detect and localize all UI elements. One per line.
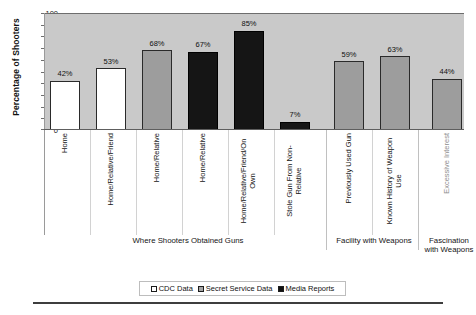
y-axis-spine bbox=[44, 13, 45, 235]
bar-value-home-relative-friend: 53% bbox=[96, 58, 126, 66]
category-label-home-relative-friend-own: Home/Relative/Friend/On Own bbox=[240, 133, 257, 229]
plot-area bbox=[44, 13, 464, 130]
category-label-home: Home bbox=[61, 133, 70, 153]
legend-swatch-media-icon bbox=[278, 286, 284, 292]
plot-inner bbox=[44, 14, 464, 130]
category-label-home-relative-friend: Home/Relative/Friend bbox=[107, 133, 116, 206]
category-separator bbox=[372, 130, 373, 235]
bar-value-home-relative-ss: 68% bbox=[142, 40, 172, 48]
category-label-wrap: Home/Relative bbox=[142, 133, 172, 229]
group-label-where-shooters-obtained-guns: Where Shooters Obtained Guns bbox=[108, 236, 268, 245]
category-label-previously-used-gun: Previously Used Gun bbox=[345, 133, 354, 203]
bar-home-relative-ss[interactable] bbox=[142, 50, 172, 130]
category-label-excessive-interest: Excessive Interest bbox=[443, 133, 452, 194]
category-separator bbox=[228, 130, 229, 235]
category-separator bbox=[182, 130, 183, 235]
x-axis-baseline bbox=[44, 129, 464, 130]
category-label-wrap: Home/Relative/Friend bbox=[96, 133, 126, 229]
legend-swatch-cdc-icon bbox=[151, 286, 157, 292]
bar-home-relative-friend-own[interactable] bbox=[234, 31, 264, 131]
bar-known-history-weapon-use[interactable] bbox=[380, 56, 410, 130]
category-separator bbox=[136, 130, 137, 235]
chart-figure: Percentage of Shooters 100 90 80 70 60 5… bbox=[0, 0, 476, 315]
legend-label-secret-service-data: Secret Service Data bbox=[206, 284, 273, 293]
bar-value-home: 42% bbox=[50, 70, 80, 78]
category-label-wrap: Known History of Weapon Use bbox=[380, 133, 410, 229]
bar-value-previously-used-gun: 59% bbox=[334, 51, 364, 59]
category-label-wrap: Home/Relative bbox=[188, 133, 218, 229]
category-label-home-relative-media: Home/Relative bbox=[199, 133, 208, 182]
bar-home[interactable] bbox=[50, 81, 80, 130]
group-separator bbox=[418, 130, 419, 250]
bar-home-relative-friend[interactable] bbox=[96, 68, 126, 130]
category-label-wrap: Home/Relative/Friend/On Own bbox=[234, 133, 264, 229]
category-label-wrap: Home bbox=[50, 133, 80, 229]
bar-value-known-history-weapon-use: 63% bbox=[380, 46, 410, 54]
bar-previously-used-gun[interactable] bbox=[334, 61, 364, 130]
legend: CDC Data Secret Service Data Media Repor… bbox=[139, 281, 346, 296]
category-label-wrap: Excessive Interest bbox=[432, 133, 462, 229]
legend-label-media-reports: Media Reports bbox=[286, 284, 335, 293]
category-label-known-history-weapon-use: Known History of Weapon Use bbox=[386, 133, 403, 229]
group-label-facility-with-weapons: Facility with Weapons bbox=[328, 236, 420, 245]
category-label-wrap: Previously Used Gun bbox=[334, 133, 364, 229]
bar-value-home-relative-media: 67% bbox=[188, 41, 218, 49]
bar-value-stole-gun-non-relative: 7% bbox=[280, 111, 310, 119]
legend-item-secret-service-data[interactable]: Secret Service Data bbox=[198, 284, 273, 293]
legend-label-cdc-data: CDC Data bbox=[159, 284, 193, 293]
bar-value-home-relative-friend-own: 85% bbox=[234, 20, 264, 28]
group-label-fascination-with-weapons: Fascination with Weapons bbox=[424, 236, 474, 255]
category-label-wrap: Stole Gun From Non-Relative bbox=[280, 133, 310, 229]
bar-excessive-interest[interactable] bbox=[432, 79, 462, 131]
legend-swatch-secret-service-icon bbox=[198, 286, 204, 292]
bar-home-relative-media[interactable] bbox=[188, 52, 218, 130]
bottom-divider bbox=[33, 302, 443, 304]
bar-value-excessive-interest: 44% bbox=[432, 68, 462, 76]
category-separator bbox=[274, 130, 275, 235]
legend-item-media-reports[interactable]: Media Reports bbox=[278, 284, 335, 293]
group-separator bbox=[326, 130, 327, 250]
category-label-home-relative-ss: Home/Relative bbox=[153, 133, 162, 182]
category-label-stole-gun-non-relative: Stole Gun From Non-Relative bbox=[286, 133, 303, 229]
legend-item-cdc-data[interactable]: CDC Data bbox=[151, 284, 193, 293]
category-separator bbox=[90, 130, 91, 235]
